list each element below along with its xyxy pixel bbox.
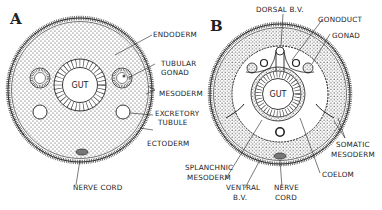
excretory-tubule-right <box>116 105 130 119</box>
label-ectoderm: ECTODERM <box>147 139 189 148</box>
panel-a: A GUT <box>8 10 203 192</box>
label-gonoduct: GONODUCT <box>318 15 362 24</box>
label-cord: CORD <box>275 193 297 202</box>
label-bv: B.V. <box>233 193 247 202</box>
tubular-gonad-left <box>30 68 50 88</box>
label-ventral: VENTRAL <box>226 183 260 192</box>
body-plan-diagram: A GUT <box>0 0 382 210</box>
label-gonad-b: GONAD <box>332 31 360 40</box>
label-coelom: COELOM <box>322 170 354 179</box>
label-somatic: SOMATIC <box>336 140 370 149</box>
label-tubule: TUBULE <box>157 118 188 127</box>
nerve-cord-a <box>76 149 88 155</box>
dorsal-blood-vessel <box>276 47 284 55</box>
gut-label-b: GUT <box>270 90 287 99</box>
gut-label-a: GUT <box>72 81 89 90</box>
label-tubular: TUBULAR <box>160 59 196 68</box>
label-splanchnic: SPLANCHNIC <box>185 163 233 172</box>
label-mesoderm: MESODERM <box>159 89 203 98</box>
panel-b-letter: B <box>210 17 223 35</box>
label-nerve: NERVE <box>274 183 299 192</box>
panel-b: B GUT <box>185 5 375 202</box>
tubular-gonad-right <box>112 68 132 88</box>
excretory-tubule-left <box>33 105 47 119</box>
label-splanchnic-mesoderm: MESODERM <box>187 173 231 182</box>
label-nerve-cord-a: NERVE CORD <box>73 183 123 192</box>
label-gonad-a: GONAD <box>161 68 189 77</box>
nerve-cord-b <box>274 153 286 159</box>
label-somatic-mesoderm: MESODERM <box>331 150 375 159</box>
label-endoderm: ENDODERM <box>153 30 197 39</box>
panel-a-letter: A <box>9 10 22 28</box>
label-dorsal-bv: DORSAL B.V. <box>256 5 304 14</box>
ventral-blood-vessel <box>276 128 284 136</box>
label-excretory: EXCRETORY <box>155 109 200 118</box>
